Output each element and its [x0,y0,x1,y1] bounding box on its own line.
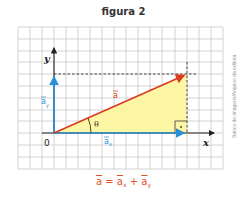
y-axis-label: y [43,53,51,64]
x-axis-label: x [202,137,210,148]
formula-eq: = [102,176,117,187]
vector-diagram: y x 0 θ a a x a y [0,0,247,198]
vector-a-label: a [113,91,118,100]
origin-label: 0 [44,138,50,148]
formula-plus: + [127,176,142,187]
angle-label: θ [94,120,99,129]
vector-ax-label: a x [104,137,112,147]
svg-text:x: x [109,141,112,147]
image-credit: Banco de imagens/Arquivo da editora [231,28,241,138]
formula-term-2-sub: y [147,181,151,188]
svg-text:a: a [113,91,118,100]
svg-text:y: y [46,102,49,109]
vector-sum-formula: a = ax + ay [0,176,247,188]
